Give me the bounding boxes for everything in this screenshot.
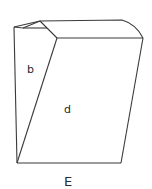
face-label-d: d <box>64 104 71 115</box>
diagonal-edge <box>17 38 57 163</box>
crystal-diagram <box>0 0 152 189</box>
top-back-edge <box>40 20 143 38</box>
caption-label-e: E <box>64 175 72 188</box>
right-edge <box>121 38 143 163</box>
face-label-b: b <box>27 64 34 75</box>
left-edge <box>14 27 17 163</box>
top-left-facet <box>14 21 57 38</box>
